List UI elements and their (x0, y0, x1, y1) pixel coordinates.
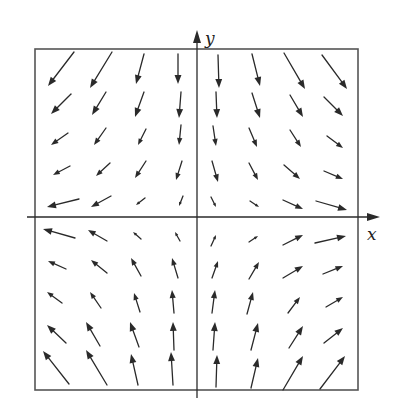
vector-arrow (171, 258, 178, 278)
arrow-head-icon (43, 228, 53, 235)
vector-arrow (130, 354, 138, 385)
arrow-shaft (251, 364, 257, 388)
vector-arrow (212, 161, 219, 182)
arrow-head-icon (51, 139, 59, 145)
arrow-head-icon (252, 139, 257, 147)
vector-arrow (96, 163, 110, 176)
arrow-shaft (173, 263, 178, 278)
vector-arrow (252, 93, 261, 118)
arrow-head-icon (179, 202, 182, 206)
arrow-shaft (52, 329, 66, 343)
arrow-shaft (290, 95, 300, 112)
vector-arrow (177, 125, 182, 145)
vector-arrow (133, 232, 141, 239)
arrow-shaft (249, 128, 255, 142)
arrow-head-icon (335, 174, 343, 179)
y-axis-label: y (204, 28, 215, 48)
arrow-shaft (283, 237, 298, 245)
arrow-shaft (249, 266, 257, 279)
arrow-shaft (283, 269, 298, 278)
arrow-shaft (52, 52, 74, 81)
arrow-shaft (173, 328, 174, 350)
arrow-shaft (288, 301, 297, 313)
arrow-head-icon (336, 297, 343, 303)
vector-arrow (134, 293, 140, 312)
arrow-shaft (95, 263, 107, 273)
vector-arrow (91, 260, 107, 273)
arrow-head-icon (90, 79, 98, 88)
arrow-shaft (213, 328, 215, 350)
arrow-shaft (315, 237, 340, 243)
arrow-shaft (179, 92, 181, 112)
arrow-head-icon (253, 173, 258, 180)
vector-arrow (88, 230, 107, 241)
vector-arrow (90, 292, 101, 308)
arrow-shaft (172, 296, 174, 313)
arrow-head-icon (92, 106, 100, 115)
vector-arrow (168, 352, 175, 385)
vector-arrow (51, 133, 68, 145)
vector-arrow (213, 92, 220, 118)
arrow-head-icon (138, 138, 143, 145)
arrow-shaft (47, 356, 69, 384)
arrow-shaft (213, 126, 215, 141)
arrow-shaft (52, 263, 66, 269)
arrow-head-icon (337, 204, 347, 211)
arrow-shaft (55, 133, 68, 142)
x-axis-label: x (367, 224, 377, 244)
arrow-shaft (212, 265, 217, 278)
arrow-head-icon (295, 203, 303, 209)
y-axis-arrow-icon (193, 30, 201, 43)
arrow-head-icon (176, 109, 183, 118)
arrow-shaft (138, 198, 145, 203)
arrow-shaft (249, 238, 256, 242)
vector-arrow (211, 235, 216, 246)
vector-arrows (43, 52, 347, 390)
vector-arrow (176, 92, 183, 118)
vector-arrow (175, 232, 180, 241)
vector-arrow (283, 235, 303, 245)
arrow-head-icon (294, 266, 303, 273)
vector-arrow (130, 322, 139, 347)
vector-arrow (320, 356, 345, 389)
vector-arrow (135, 54, 144, 84)
vector-arrow (170, 290, 176, 313)
arrow-head-icon (295, 356, 303, 365)
arrow-shaft (132, 328, 139, 347)
arrow-head-icon (86, 350, 94, 359)
vector-arrow (283, 356, 303, 390)
vector-arrow (290, 95, 303, 117)
arrow-head-icon (170, 322, 177, 331)
vector-arrow (249, 163, 258, 180)
vector-arrow (212, 261, 218, 278)
vector-arrow (212, 126, 217, 146)
vector-arrow (91, 196, 111, 207)
arrow-head-icon (130, 354, 137, 364)
arrow-shaft (324, 332, 338, 343)
arrow-shaft (216, 92, 217, 112)
vector-arrow (249, 236, 258, 242)
vector-arrow (322, 55, 347, 89)
arrow-head-icon (214, 261, 219, 268)
vector-arrow (211, 322, 218, 350)
arrow-shaft (324, 171, 338, 177)
vector-arrow (176, 161, 182, 180)
arrow-head-icon (176, 173, 181, 180)
vector-arrow (47, 199, 79, 208)
arrow-shaft (57, 166, 70, 173)
arrow-head-icon (211, 322, 218, 331)
arrow-head-icon (296, 108, 303, 117)
vector-arrow (247, 292, 254, 314)
arrow-shaft (177, 161, 182, 175)
vector-arrow (324, 97, 343, 116)
arrow-shaft (211, 238, 215, 246)
arrow-head-icon (91, 200, 99, 207)
arrow-shaft (316, 201, 341, 208)
vector-arrow (316, 201, 347, 211)
arrow-head-icon (47, 201, 57, 208)
vector-arrow (288, 297, 300, 313)
arrow-head-icon (253, 262, 259, 269)
arrow-shaft (53, 199, 79, 205)
arrow-head-icon (175, 232, 178, 236)
vector-arrow (135, 92, 144, 117)
